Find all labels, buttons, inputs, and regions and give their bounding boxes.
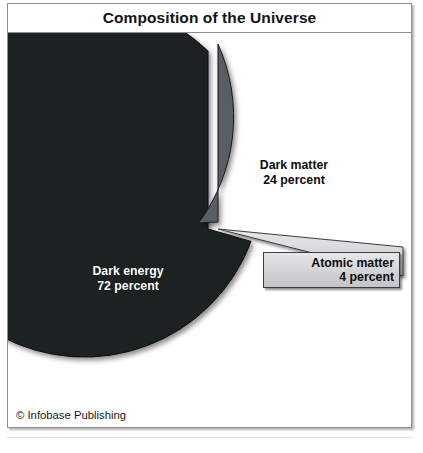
slice-label-atomic-matter-value: 4 percent [339, 270, 394, 284]
figure-caption-strip [7, 437, 412, 453]
pie-slice-dark-energy[interactable] [8, 33, 251, 357]
pie-chart-svg [8, 33, 411, 428]
page-title: Composition of the Universe [103, 9, 317, 27]
copyright-credit: © Infobase Publishing [16, 409, 126, 421]
slice-callout-atomic-matter: Atomic matter 4 percent [263, 252, 400, 288]
slice-label-atomic-matter-name: Atomic matter [311, 256, 394, 270]
figure-frame: Composition of the Universe [7, 3, 412, 428]
pie-chart: Dark energy 72 percent Dark matter 24 pe… [8, 33, 411, 428]
figure-title-bar: Composition of the Universe [8, 4, 411, 33]
